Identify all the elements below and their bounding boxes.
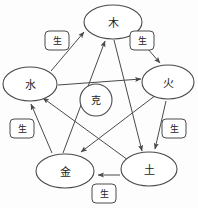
tag-earth-metal: 生 bbox=[92, 184, 116, 203]
tag-wood-fire: 生 bbox=[130, 31, 154, 50]
node-fire[interactable]: 火 bbox=[142, 65, 194, 99]
node-earth-label: 土 bbox=[144, 164, 155, 177]
node-metal-label: 金 bbox=[60, 165, 71, 179]
tag-metal-water-label: 生 bbox=[18, 123, 27, 134]
node-metal[interactable]: 金 bbox=[36, 154, 94, 188]
tag-water-wood-label: 生 bbox=[53, 35, 62, 46]
overcoming-cycle-center: 克 bbox=[80, 84, 112, 116]
tag-water-wood: 生 bbox=[45, 31, 69, 50]
tag-fire-earth: 生 bbox=[162, 119, 186, 138]
node-water[interactable]: 水 bbox=[3, 67, 57, 101]
tag-earth-metal-label: 生 bbox=[100, 188, 109, 199]
tag-metal-water: 生 bbox=[10, 119, 34, 138]
node-water-label: 水 bbox=[25, 79, 36, 92]
wuxing-diagram: 克 木 火 土 金 水 生 生 bbox=[0, 0, 198, 208]
tag-wood-fire-label: 生 bbox=[138, 35, 147, 46]
center-label: 克 bbox=[91, 95, 101, 106]
tag-fire-earth-label: 生 bbox=[170, 123, 179, 134]
wuxing-canvas: 克 木 火 土 金 水 生 生 bbox=[0, 0, 198, 208]
node-fire-label: 火 bbox=[163, 77, 174, 90]
node-wood-label: 木 bbox=[108, 17, 119, 30]
node-earth[interactable]: 土 bbox=[121, 152, 177, 186]
edge-wood-to-earth bbox=[114, 40, 142, 151]
